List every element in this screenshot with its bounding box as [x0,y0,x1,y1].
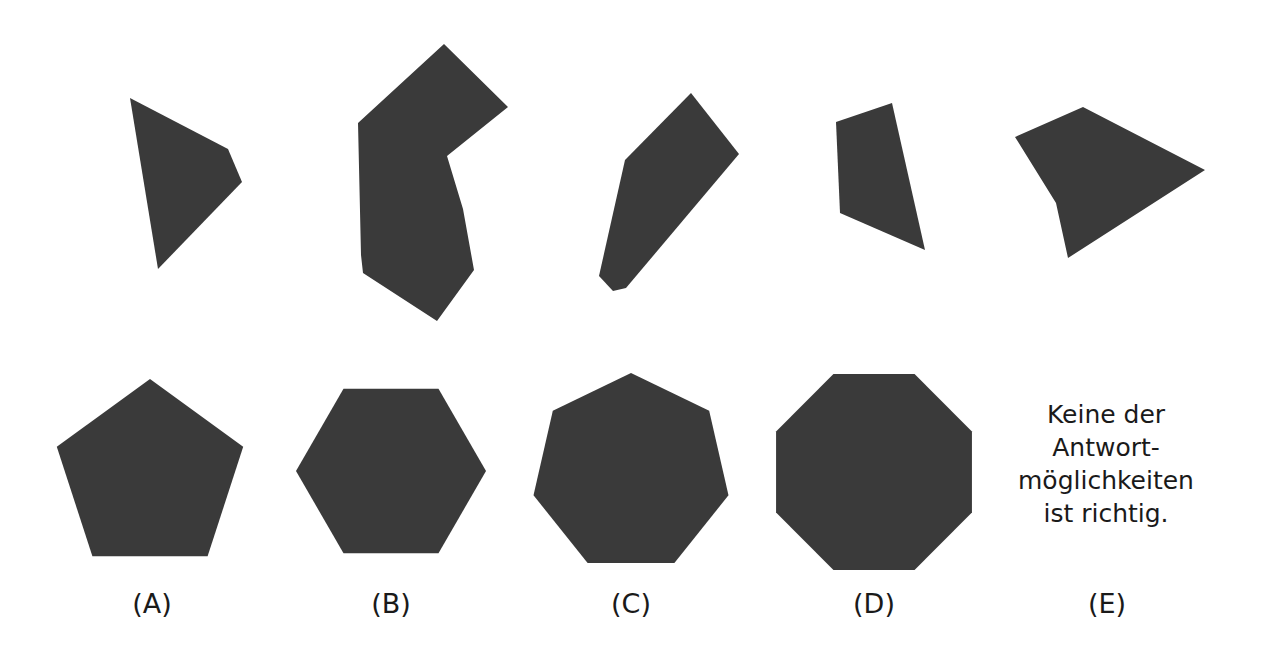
answer-shape-pentagon[interactable] [57,379,243,556]
quadrilateral-piece-3 [599,93,739,291]
option-label-b: (B) [331,588,451,619]
option-label-d: (D) [814,588,934,619]
option-label-a: (A) [92,588,212,619]
none-of-the-above-text: Keine der Antwort- möglichkeiten ist ric… [1016,398,1196,530]
answer-shape-hexagon[interactable] [296,389,486,554]
answer-shape-octagon[interactable] [776,374,972,570]
noa-line-4: ist richtig. [1016,497,1196,530]
noa-line-3: möglichkeiten [1016,464,1196,497]
option-label-e: (E) [1047,588,1167,619]
option-label-c: (C) [571,588,691,619]
puzzle-pieces-group [130,44,1205,321]
answer-shapes-group [57,373,972,570]
geometry-question-figure: (A) (B) (C) (D) (E) Keine der Antwort- m… [0,0,1263,659]
arrow-piece-5 [1015,107,1205,258]
concave-piece-2 [358,44,508,321]
shapes-canvas [0,0,1263,659]
quadrilateral-piece-1 [130,98,242,269]
noa-line-1: Keine der [1016,398,1196,431]
noa-line-2: Antwort- [1016,431,1196,464]
answer-shape-heptagon[interactable] [534,373,729,563]
quadrilateral-piece-4 [836,103,925,250]
